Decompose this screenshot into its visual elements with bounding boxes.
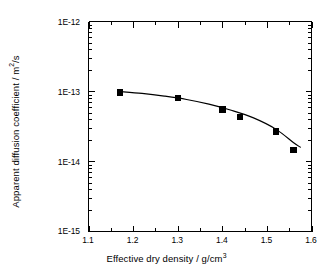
x-ticks — [90, 22, 313, 232]
data-point-marker — [273, 128, 279, 134]
y-axis-title-wrapper: Apparent diffusion coefficient / m2/s — [0, 0, 26, 277]
y-axis-title-superscript: 2 — [8, 63, 15, 67]
y-major-ticks-right — [306, 22, 312, 232]
data-point-marker — [290, 147, 296, 153]
axis-frame — [89, 22, 312, 232]
x-axis-title-text: Effective dry density / g/cm — [106, 253, 222, 264]
data-series-markers — [117, 89, 297, 153]
y-major-ticks — [89, 22, 95, 232]
y-minor-ticks — [89, 26, 93, 211]
y-axis-title-suffix: /s — [10, 55, 21, 63]
plot-area — [0, 0, 333, 277]
fit-curve — [120, 92, 301, 148]
chart-figure: 1E-12 1E-13 1E-14 1E-15 1.1 1.2 1.3 1.4 … — [0, 0, 333, 277]
data-point-marker — [219, 106, 225, 112]
x-axis-title: Effective dry density / g/cm3 — [0, 253, 333, 264]
x-axis-title-superscript: 3 — [223, 252, 227, 259]
y-axis-title: Apparent diffusion coefficient / m2/s — [10, 27, 21, 237]
y-minor-ticks-right — [308, 26, 312, 211]
y-axis-title-text: Apparent diffusion coefficient / m — [10, 67, 21, 208]
data-point-marker — [237, 114, 243, 120]
data-point-marker — [175, 95, 181, 101]
data-point-marker — [117, 89, 123, 95]
